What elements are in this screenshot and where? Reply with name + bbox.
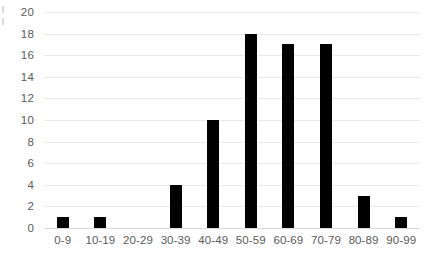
y-tick-label: 14 [21,71,34,83]
bars-layer [44,12,420,228]
bar [282,44,294,228]
bar [245,34,257,228]
x-tick-label: 90-99 [382,234,420,246]
bar [395,217,407,228]
bar [320,44,332,228]
bar [358,196,370,228]
y-tick-label: 4 [27,179,34,191]
x-tick-label: 30-39 [157,234,195,246]
bar-slot [345,12,383,228]
x-tick-label: 80-89 [345,234,383,246]
y-tick-label: 16 [21,49,34,61]
x-tick-label: 70-79 [307,234,345,246]
y-axis: 02468101214161820 [0,0,40,261]
x-axis: 0-910-1920-2930-3940-4950-5960-6970-7980… [44,234,420,254]
y-tick-label: 8 [27,136,34,148]
x-tick-label: 60-69 [270,234,308,246]
bar-slot [44,12,82,228]
y-tick-label: 6 [27,157,34,169]
x-tick-label: 50-59 [232,234,270,246]
x-tick-label: 0-9 [44,234,82,246]
x-tick-label: 20-29 [119,234,157,246]
bar-slot [270,12,308,228]
x-tick-label: 10-19 [82,234,120,246]
gridline-0 [44,228,420,229]
bar-chart: 02468101214161820 0-910-1920-2930-3940-4… [0,0,431,261]
bar-slot [82,12,120,228]
bar-slot [194,12,232,228]
bar-slot [157,12,195,228]
bar [57,217,69,228]
y-tick-label: 2 [27,200,34,212]
bar-slot [382,12,420,228]
y-tick-label: 10 [21,114,34,126]
bar [94,217,106,228]
y-tick-label: 18 [21,28,34,40]
bar-slot [232,12,270,228]
bar-slot [119,12,157,228]
bar [170,185,182,228]
x-tick-label: 40-49 [194,234,232,246]
bar [207,120,219,228]
bar-slot [307,12,345,228]
y-tick-label: 20 [21,6,34,18]
y-tick-label: 12 [21,92,34,104]
y-tick-label: 0 [27,222,34,234]
